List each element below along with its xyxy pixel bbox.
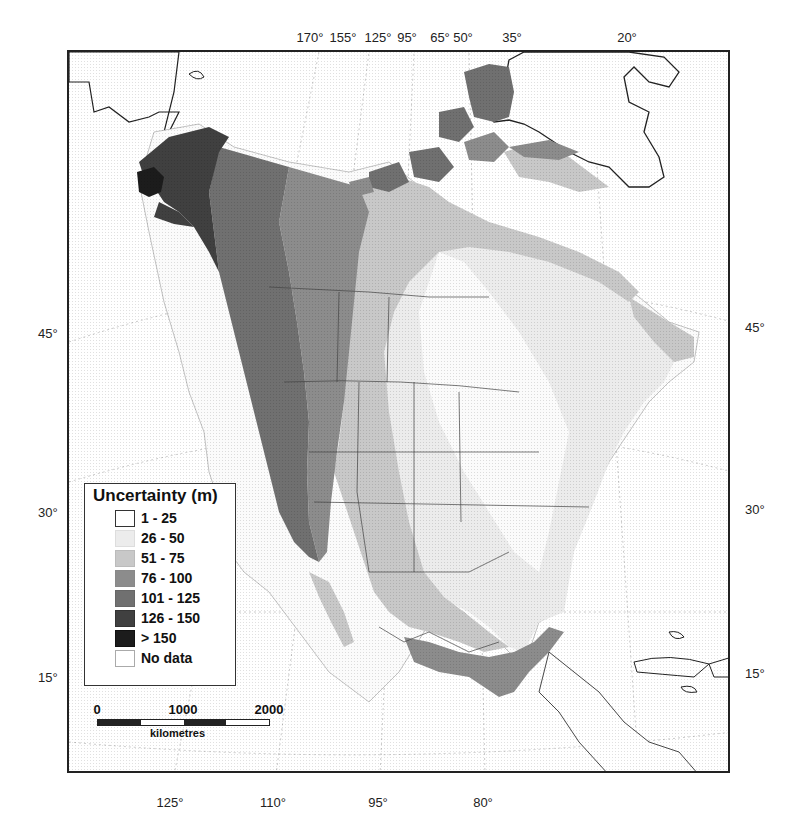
- bottom-lon-label: 80°: [473, 795, 493, 810]
- bottom-lon-label: 110°: [260, 795, 286, 810]
- legend-swatch: [115, 570, 135, 587]
- legend-swatch: [115, 510, 135, 527]
- legend-label: > 150: [141, 630, 176, 646]
- legend-label: 126 - 150: [141, 610, 200, 626]
- legend-item: > 150: [115, 629, 176, 647]
- left-lat-label: 30°: [38, 505, 58, 520]
- legend-item: No data: [115, 649, 192, 667]
- legend-item: 51 - 75: [115, 549, 185, 567]
- top-lon-label: 95°: [397, 30, 417, 45]
- legend-item: 76 - 100: [115, 569, 192, 587]
- legend-label: No data: [141, 650, 192, 666]
- top-lon-label: 125°: [365, 30, 392, 45]
- scale-segment: [141, 720, 184, 725]
- legend-label: 76 - 100: [141, 570, 192, 586]
- left-lat-label: 45°: [38, 326, 58, 341]
- top-lon-label: 20°: [617, 30, 637, 45]
- scale-label-2000: 2000: [255, 702, 284, 717]
- legend-swatch: [115, 650, 135, 667]
- left-lat-label: 15°: [38, 670, 58, 685]
- scale-segment: [98, 720, 141, 725]
- scale-bar: 0 1000 2000 kilometres: [92, 702, 292, 742]
- scale-bar-graphic: [97, 719, 270, 726]
- legend-item: 101 - 125: [115, 589, 200, 607]
- legend-label: 101 - 125: [141, 590, 200, 606]
- map-legend: Uncertainty (m) 1 - 25 26 - 50 51 - 75 7…: [84, 483, 236, 686]
- scale-unit: kilometres: [150, 727, 205, 739]
- right-lat-label: 15°: [745, 666, 765, 681]
- right-lat-label: 45°: [745, 320, 765, 335]
- legend-swatch: [115, 630, 135, 647]
- top-lon-label: 50°: [453, 30, 473, 45]
- legend-swatch: [115, 590, 135, 607]
- legend-item: 1 - 25: [115, 509, 177, 527]
- scale-label-1000: 1000: [169, 702, 198, 717]
- right-lat-label: 30°: [745, 502, 765, 517]
- legend-swatch: [115, 610, 135, 627]
- legend-swatch: [115, 550, 135, 567]
- top-lon-label: 65°: [430, 30, 450, 45]
- scale-segment: [226, 720, 269, 725]
- legend-item: 26 - 50: [115, 529, 185, 547]
- legend-item: 126 - 150: [115, 609, 200, 627]
- top-lon-label: 35°: [502, 30, 522, 45]
- legend-label: 1 - 25: [141, 510, 177, 526]
- top-lon-label: 170°: [297, 30, 324, 45]
- bottom-lon-label: 95°: [368, 795, 388, 810]
- caribbean-islands: [634, 632, 730, 693]
- legend-title: Uncertainty (m): [93, 486, 218, 506]
- scale-label-0: 0: [93, 702, 100, 717]
- legend-swatch: [115, 530, 135, 547]
- top-lon-label: 155°: [330, 30, 357, 45]
- legend-label: 51 - 75: [141, 550, 185, 566]
- scale-segment: [184, 720, 227, 725]
- bottom-lon-label: 125°: [157, 795, 184, 810]
- legend-label: 26 - 50: [141, 530, 185, 546]
